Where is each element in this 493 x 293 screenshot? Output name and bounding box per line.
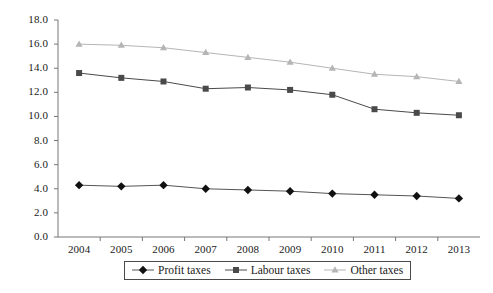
- legend-triangle-marker-icon: [324, 265, 346, 275]
- y-axis-tick-label: 18.0: [14, 13, 48, 25]
- series-line: [79, 185, 459, 198]
- data-point-diamond-marker: [139, 266, 147, 274]
- data-point-square-marker: [245, 85, 251, 91]
- data-point-diamond-marker: [370, 191, 378, 199]
- data-point-square-marker: [414, 110, 420, 116]
- x-axis-tick-label: 2007: [186, 243, 226, 255]
- data-point-diamond-marker: [413, 192, 421, 200]
- y-axis-tick-label: 0.0: [14, 230, 48, 242]
- legend-item-label: Other taxes: [350, 264, 403, 276]
- data-point-diamond-marker: [328, 189, 336, 197]
- data-point-square-marker: [161, 78, 167, 84]
- data-point-square-marker: [372, 106, 378, 112]
- data-point-diamond-marker: [75, 181, 83, 189]
- chart-container: 0.02.04.06.08.010.012.014.016.018.0 2004…: [0, 0, 493, 293]
- y-axis-tick-label: 8.0: [14, 134, 48, 146]
- x-axis-tick-label: 2005: [101, 243, 141, 255]
- data-point-square-marker: [329, 92, 335, 98]
- data-point-square-marker: [287, 87, 293, 93]
- data-point-square-marker: [203, 86, 209, 92]
- data-point-diamond-marker: [159, 181, 167, 189]
- y-axis-tick-label: 12.0: [14, 85, 48, 97]
- axis-layer: [54, 20, 480, 241]
- legend-item-label: Profit taxes: [158, 264, 211, 276]
- legend-diamond-marker-icon: [132, 265, 154, 275]
- data-point-diamond-marker: [202, 185, 210, 193]
- series-line: [79, 44, 459, 81]
- y-axis-tick-label: 16.0: [14, 37, 48, 49]
- x-axis-tick-label: 2010: [312, 243, 352, 255]
- data-point-square-marker: [76, 70, 82, 76]
- data-point-diamond-marker: [286, 187, 294, 195]
- legend-item-other-taxes[interactable]: Other taxes: [324, 264, 403, 276]
- series-line: [79, 73, 459, 115]
- data-point-diamond-marker: [117, 182, 125, 190]
- x-axis-tick-label: 2012: [397, 243, 437, 255]
- series-layer: [75, 40, 463, 202]
- chart-legend: Profit taxesLabour taxesOther taxes: [124, 261, 411, 280]
- x-axis-tick-label: 2013: [439, 243, 479, 255]
- legend-item-labour-taxes[interactable]: Labour taxes: [225, 264, 311, 276]
- y-axis-tick-label: 4.0: [14, 182, 48, 194]
- x-axis-tick-label: 2006: [144, 243, 184, 255]
- data-point-diamond-marker: [244, 186, 252, 194]
- data-point-triangle-marker: [76, 40, 83, 46]
- x-axis-tick-label: 2008: [228, 243, 268, 255]
- y-axis-tick-label: 2.0: [14, 206, 48, 218]
- y-axis-tick-label: 10.0: [14, 109, 48, 121]
- series-profit-taxes: [75, 181, 463, 203]
- data-point-square-marker: [118, 75, 124, 81]
- y-axis-tick-label: 6.0: [14, 158, 48, 170]
- data-point-triangle-marker: [118, 42, 125, 48]
- data-point-square-marker: [456, 112, 462, 118]
- x-axis-tick-label: 2011: [355, 243, 395, 255]
- data-point-diamond-marker: [455, 194, 463, 202]
- x-axis-tick-label: 2009: [270, 243, 310, 255]
- series-other-taxes: [76, 40, 463, 84]
- y-axis-tick-label: 14.0: [14, 61, 48, 73]
- data-point-triangle-marker: [332, 266, 339, 272]
- x-axis-tick-label: 2004: [59, 243, 99, 255]
- data-point-square-marker: [233, 267, 239, 273]
- legend-item-label: Labour taxes: [251, 264, 311, 276]
- legend-square-marker-icon: [225, 265, 247, 275]
- series-labour-taxes: [76, 70, 462, 118]
- legend-item-profit-taxes[interactable]: Profit taxes: [132, 264, 211, 276]
